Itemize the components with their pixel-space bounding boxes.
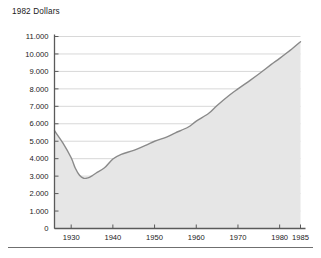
y-tick-label: 9.000 [29, 67, 48, 76]
y-tick-label: 4.000 [29, 154, 48, 163]
footer-divider [8, 247, 313, 248]
y-tick-label: 2.000 [29, 189, 48, 198]
y-tick-label: 3.000 [29, 172, 48, 181]
y-tick-label: 0 [44, 224, 48, 233]
x-tick-label: 1950 [146, 233, 163, 242]
data-area-series [55, 42, 301, 229]
area-chart-plot: 01.0002.0003.0004.0005.0006.0007.0008.00… [0, 0, 321, 258]
y-tick-label: 7.000 [29, 102, 48, 111]
y-tick-label: 1.000 [29, 207, 48, 216]
y-tick-label: 5.000 [29, 137, 48, 146]
x-tick-label: 1940 [104, 233, 121, 242]
y-tick-label: 10.000 [25, 50, 48, 59]
x-tick-label: 1960 [188, 233, 205, 242]
chart-figure: 1982 Dollars 01.0002.0003.0004.0005.0006… [0, 0, 321, 258]
y-tick-label: 11.000 [26, 32, 49, 41]
y-tick-label: 6.000 [29, 119, 48, 128]
x-tick-label: 1985 [292, 233, 309, 242]
y-axis-ticks: 01.0002.0003.0004.0005.0006.0007.0008.00… [25, 32, 58, 233]
x-tick-label: 1980 [271, 233, 288, 242]
x-tick-label: 1930 [63, 233, 80, 242]
x-tick-label: 1970 [230, 233, 247, 242]
y-tick-label: 8.000 [29, 85, 48, 94]
